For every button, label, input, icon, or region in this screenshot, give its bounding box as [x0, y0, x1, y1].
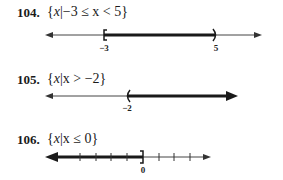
tick-label: 5	[214, 43, 219, 53]
left-arrow-icon	[45, 32, 53, 38]
number-line-104: −3 5	[45, 29, 262, 53]
right-arrow-icon	[203, 154, 211, 160]
right-arrow-icon	[226, 91, 238, 101]
number-line-106: 0	[45, 151, 211, 175]
tick-label: 0	[141, 165, 146, 175]
left-arrow-icon	[45, 152, 58, 162]
left-arrow-icon	[45, 93, 53, 99]
tick-label: −2	[122, 103, 132, 113]
tick-label: −3	[99, 43, 109, 53]
number-lines: −3 5 −2 0	[0, 0, 283, 180]
number-line-105: −2	[45, 90, 238, 113]
right-arrow-icon	[254, 32, 262, 38]
